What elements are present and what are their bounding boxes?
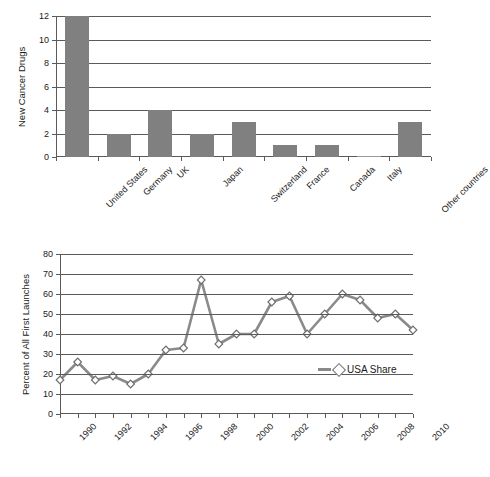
line-chart-legend: USA Share [318,364,396,375]
bar-chart-y-tick [52,16,56,17]
line-chart-y-tick [56,294,60,295]
line-chart-x-label: 2004 [325,422,346,443]
line-chart-x-label: 1992 [113,422,134,443]
bar-chart-gridline [56,16,431,17]
line-chart-x-tick [148,414,149,418]
bar-chart-x-label: Canada [348,165,377,194]
legend-line-swatch [318,368,331,371]
bar-chart-y-tick [52,87,56,88]
bar-chart: New Cancer Drugs 024681012United StatesG… [0,0,444,240]
bar-chart-y-tick-label: 10 [39,36,49,45]
line-chart-x-label: 2008 [396,422,417,443]
line-chart-x-tick [166,414,167,418]
line-chart-y-tick-label: 0 [48,410,53,419]
bar-chart-x-tick [181,157,182,161]
line-chart-y-tick-label: 60 [43,290,53,299]
bar-chart-gridline [56,40,431,41]
line-chart-gridline [60,354,413,355]
line-chart-x-label: 2000 [254,422,275,443]
line-chart-y-tick-label: 80 [43,250,53,259]
line-chart-x-tick [272,414,273,418]
bar-chart-y-tick-label: 6 [44,83,49,92]
line-chart-gridline [60,314,413,315]
line-chart-x-tick [413,414,414,418]
line-chart-x-tick [60,414,61,418]
bar-chart-y-tick-label: 0 [44,153,49,162]
bar-chart-y-tick [52,40,56,41]
bar-japan [190,134,214,158]
line-chart-x-tick [325,414,326,418]
line-chart-x-tick [184,414,185,418]
bar-chart-x-label: Japan [221,165,245,189]
bar-italy [357,156,381,157]
bar-chart-y-tick [52,110,56,111]
bar-uk [148,110,172,157]
bar-chart-y-axis-title: New Cancer Drugs [16,46,27,126]
bar-chart-x-label: Switzerland [269,165,308,204]
line-chart-x-label: 2010 [431,422,452,443]
bar-france [273,145,297,157]
bar-chart-x-tick [139,157,140,161]
bar-switzerland [232,122,256,157]
bar-germany [107,134,131,158]
line-chart-x-tick [78,414,79,418]
line-chart-y-tick-label: 10 [43,390,53,399]
bar-chart-x-tick [431,157,432,161]
line-chart-gridline [60,394,413,395]
bar-chart-x-label: France [305,165,331,191]
bar-chart-y-tick [52,63,56,64]
line-chart-y-tick-label: 30 [43,350,53,359]
bar-chart-y-tick-label: 12 [39,12,49,21]
bar-chart-gridline [56,63,431,64]
bar-chart-x-tick [389,157,390,161]
bar-chart-x-tick [98,157,99,161]
line-chart-x-tick [131,414,132,418]
line-chart-y-tick-label: 70 [43,270,53,279]
line-chart-plot-area: 0102030405060708019901992199419961998200… [60,254,413,414]
line-chart-x-tick [289,414,290,418]
line-chart-x-label: 1994 [148,422,169,443]
line-chart-x-tick [219,414,220,418]
line-chart-x-tick [378,414,379,418]
line-chart-x-label: 2006 [360,422,381,443]
line-chart-x-tick [360,414,361,418]
line-chart-x-label: 1990 [78,422,99,443]
line-chart-y-tick [56,334,60,335]
bar-chart-plot-area: 024681012United StatesGermanyUKJapanSwit… [56,16,431,157]
line-chart-x-label: 1998 [219,422,240,443]
line-chart-gridline [60,294,413,295]
line-chart-x-label: 1996 [184,422,205,443]
data-point-1998 [197,276,205,284]
line-chart-gridline [60,274,413,275]
bar-chart-x-tick [306,157,307,161]
line-chart-x-tick [254,414,255,418]
line-chart-gridline [60,334,413,335]
bar-canada [315,145,339,157]
bar-chart-x-label: Other countries [440,165,490,215]
bar-chart-x-tick [264,157,265,161]
bar-chart-y-tick [52,134,56,135]
legend-label-usa-share: USA Share [347,364,396,375]
line-chart-y-tick [56,314,60,315]
line-chart-x-tick [95,414,96,418]
line-chart-x-tick [395,414,396,418]
line-chart: Percent of All First Launches 0102030405… [0,240,444,477]
bar-chart-gridline [56,87,431,88]
line-chart-x-tick [113,414,114,418]
bar-chart-x-label: Italy [385,165,403,183]
bar-chart-x-label: UK [176,165,191,180]
data-point-1997 [180,344,188,352]
line-chart-gridline [60,254,413,255]
line-chart-y-tick [56,374,60,375]
line-chart-y-tick [56,354,60,355]
line-chart-y-tick-label: 20 [43,370,53,379]
line-chart-x-label: 2002 [290,422,311,443]
bar-chart-x-tick [348,157,349,161]
line-chart-x-tick [342,414,343,418]
line-chart-y-tick [56,274,60,275]
bar-chart-x-tick [223,157,224,161]
line-chart-y-tick [56,254,60,255]
bar-chart-y-tick-label: 4 [44,106,49,115]
bar-chart-x-tick [56,157,57,161]
bar-united-states [65,16,89,157]
